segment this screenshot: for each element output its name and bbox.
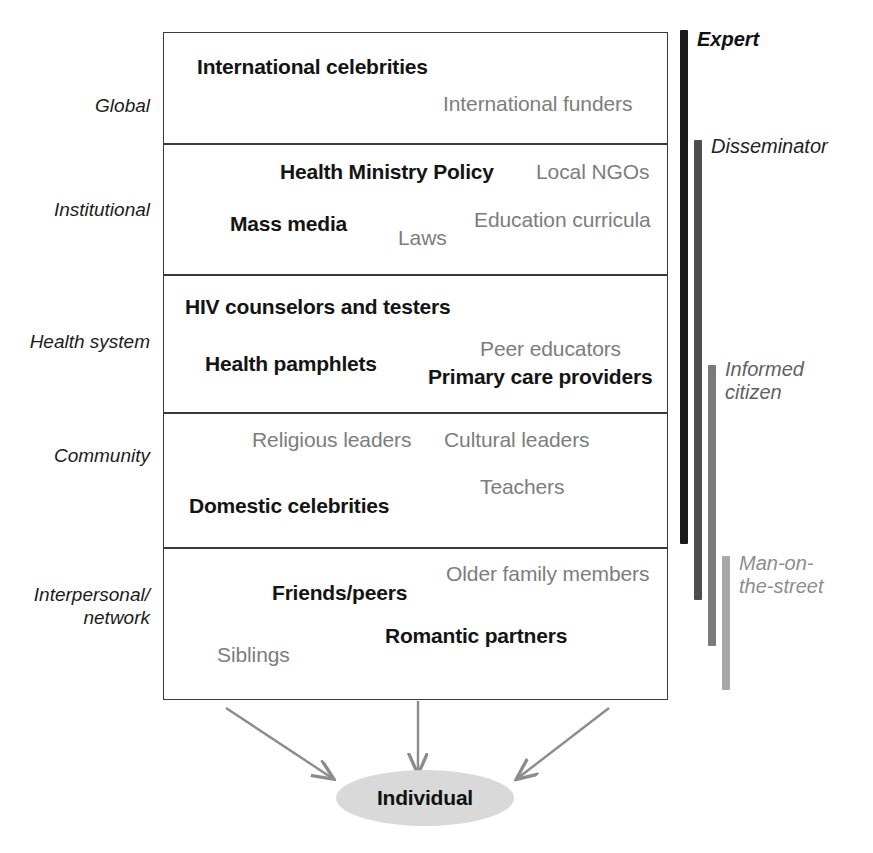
item-siblings: Siblings <box>217 644 290 666</box>
level-box-community: Religious leaders Cultural leaders Teach… <box>163 413 668 548</box>
continuum-label-man-on-the-street: Man-on- the-street <box>739 552 823 598</box>
item-older-family-members: Older family members <box>446 563 649 585</box>
item-domestic-celebrities: Domestic celebrities <box>189 495 389 517</box>
continuum-label-informed-citizen: Informed citizen <box>725 358 804 404</box>
item-cultural-leaders: Cultural leaders <box>444 429 589 451</box>
level-box-health-system: HIV counselors and testers Peer educator… <box>163 275 668 413</box>
item-peer-educators: Peer educators <box>480 338 621 360</box>
level-box-global: International celebrities International … <box>163 32 668 144</box>
level-box-interpersonal-network: Older family members Friends/peers Roman… <box>163 548 668 700</box>
item-international-funders: International funders <box>443 93 632 115</box>
item-laws: Laws <box>398 227 447 249</box>
level-label-institutional: Institutional <box>10 198 150 221</box>
continuum-bar-expert <box>680 30 688 544</box>
item-education-curricula: Education curricula <box>474 209 651 231</box>
item-teachers: Teachers <box>480 476 564 498</box>
level-label-health-system: Health system <box>0 330 150 353</box>
arrow-right <box>518 708 609 778</box>
item-friends-peers: Friends/peers <box>272 582 407 604</box>
item-hiv-counselors-and-testers: HIV counselors and testers <box>185 296 451 318</box>
continuum-bar-informed-citizen <box>708 365 716 646</box>
individual-node: Individual <box>336 770 514 826</box>
level-label-global: Global <box>20 94 150 117</box>
item-romantic-partners: Romantic partners <box>385 625 567 647</box>
item-health-pamphlets: Health pamphlets <box>205 353 377 375</box>
continuum-bar-disseminator <box>694 140 702 600</box>
item-local-ngos: Local NGOs <box>536 161 649 183</box>
arrow-left <box>226 708 332 778</box>
diagram-canvas: Global Institutional Health system Commu… <box>0 0 873 853</box>
item-health-ministry-policy: Health Ministry Policy <box>280 161 494 183</box>
item-primary-care-providers: Primary care providers <box>428 366 652 388</box>
individual-label: Individual <box>377 786 473 810</box>
item-religious-leaders: Religious leaders <box>252 429 411 451</box>
continuum-bar-man-on-the-street <box>722 556 730 690</box>
level-box-institutional: Health Ministry Policy Local NGOs Mass m… <box>163 144 668 275</box>
continuum-label-expert: Expert <box>697 28 759 51</box>
level-label-community: Community <box>10 444 150 467</box>
item-international-celebrities: International celebrities <box>197 56 428 78</box>
item-mass-media: Mass media <box>230 213 347 235</box>
level-label-interpersonal-network: Interpersonal/ network <box>0 583 150 629</box>
continuum-label-disseminator: Disseminator <box>711 135 828 158</box>
